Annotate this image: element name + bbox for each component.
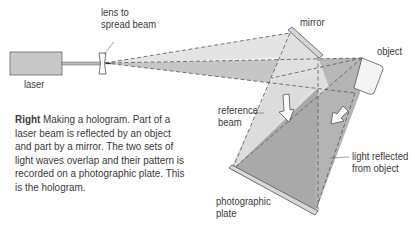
laser-box (10, 52, 62, 75)
laser-beam (62, 62, 100, 65)
photographic-plate-label: photographic plate (216, 195, 271, 219)
light-reflected-label: light reflected from object (352, 150, 408, 174)
lens-label: lens to spread beam (101, 6, 156, 30)
laser-label: laser (24, 78, 44, 90)
caption-text: Making a hologram. Part of a laser beam … (15, 113, 184, 193)
object-label: object (377, 45, 402, 57)
figure-caption: Right Making a hologram. Part of a laser… (15, 113, 186, 194)
mirror-label: mirror (300, 16, 325, 28)
caption-lead: Right (15, 113, 40, 125)
reference-beam-label: reference beam (218, 104, 258, 128)
